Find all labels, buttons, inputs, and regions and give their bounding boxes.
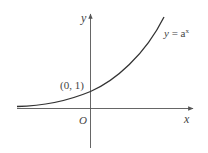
- y-axis-label: y: [80, 11, 87, 25]
- x-axis-label: x: [183, 112, 190, 126]
- curve-label: y = ax: [163, 27, 189, 39]
- curve-label-exponent: x: [185, 27, 189, 35]
- graph-canvas: y x O (0, 1) y = ax: [0, 0, 208, 153]
- origin-label: O: [79, 114, 87, 126]
- exponential-graph: y x O (0, 1) y = ax: [0, 0, 208, 153]
- curve-label-eq: = a: [169, 27, 186, 39]
- point-label: (0, 1): [60, 79, 84, 92]
